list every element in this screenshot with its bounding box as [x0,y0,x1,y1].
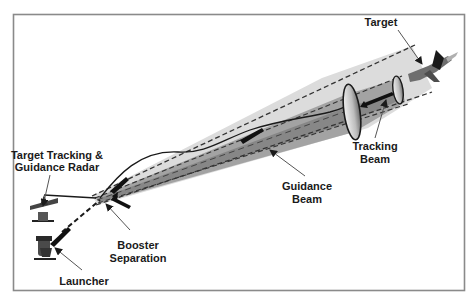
label-booster-line2: Separation [110,252,167,264]
label-radar-line2: Guidance Radar [15,161,100,173]
guidance-diagram: Target Tracking Beam Guidance Beam Targe… [0,0,476,301]
label-target: Target [365,16,398,28]
label-guidance-beam-line1: Guidance [282,180,332,192]
label-booster-line1: Booster [117,239,159,251]
label-radar-line1: Target Tracking & [11,149,103,161]
label-guidance-beam-line2: Beam [292,193,322,205]
label-tracking-beam-line2: Beam [360,153,390,165]
label-launcher: Launcher [59,275,109,287]
label-tracking-beam-line1: Tracking [352,140,397,152]
